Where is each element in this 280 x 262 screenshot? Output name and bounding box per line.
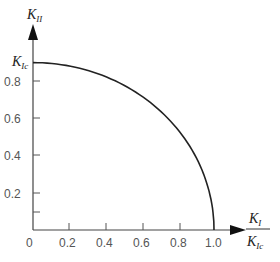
x-tick-label: 1.0 — [205, 236, 222, 250]
x-tick-label: 0.8 — [170, 236, 187, 250]
y-intercept-label: KIc — [11, 54, 28, 71]
chart: 0.8 0.6 0.4 0.2 0 0.2 0.4 0.6 0.8 1.0 KI… — [0, 0, 280, 262]
y-axis-arrow-icon — [28, 24, 38, 40]
x-tick-label: 0.2 — [59, 236, 76, 250]
x-axis-label: KI KIc — [246, 211, 270, 251]
svg-text:KI: KI — [248, 211, 262, 228]
fracture-envelope-curve — [33, 63, 214, 230]
y-tick-label: 0.6 — [4, 112, 21, 126]
svg-text:KIc: KIc — [246, 234, 263, 251]
x-tick-label: 0.6 — [133, 236, 150, 250]
x-ticks — [69, 223, 180, 230]
x-axis-arrow-icon — [230, 225, 246, 235]
y-tick-label: 0.2 — [4, 187, 21, 201]
y-tick-label: 0.4 — [4, 149, 21, 163]
y-axis-label: KII — [26, 7, 43, 24]
y-ticks — [33, 81, 40, 212]
x-tick-label: 0.4 — [96, 236, 113, 250]
y-tick-label: 0.8 — [4, 75, 21, 89]
x-tick-label: 0 — [26, 236, 33, 250]
